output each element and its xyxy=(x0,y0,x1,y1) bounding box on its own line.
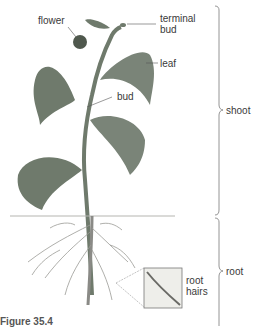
terminal-bud-label: terminal bud xyxy=(160,13,196,35)
leaf-top xyxy=(85,19,110,28)
root-label: root xyxy=(226,266,243,277)
shoot-label: shoot xyxy=(226,105,250,116)
root-system xyxy=(28,216,135,305)
flower-shape xyxy=(73,35,87,49)
shoot-bracket xyxy=(215,6,223,215)
leaf-lower-left xyxy=(18,157,82,210)
flower-label: flower xyxy=(38,15,65,26)
terminal-bud-shape xyxy=(120,23,126,27)
leaf-mid-right xyxy=(90,116,145,175)
figure-caption: Figure 35.4 xyxy=(0,316,53,327)
leaf-label: leaf xyxy=(160,58,176,69)
leaf-left-upper xyxy=(34,67,75,125)
root-bracket xyxy=(215,218,223,326)
bud-label: bud xyxy=(117,91,134,102)
root-hairs-label: root hairs xyxy=(186,275,208,297)
